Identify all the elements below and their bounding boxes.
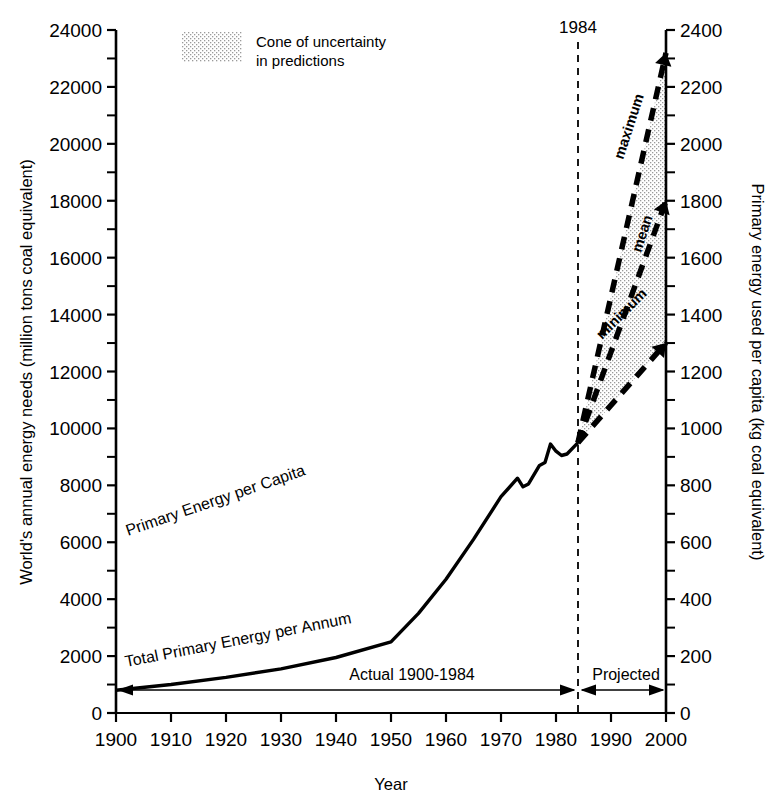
y-tick-label: 8000 [60,475,102,496]
x-tick-label: 2000 [645,729,687,750]
x-tick-label: 1930 [260,729,302,750]
y2-tick-label: 2000 [680,134,722,155]
y2-axis-title: Primary energy used per capita (kg coal … [749,184,767,561]
marker-1984-label: 1984 [559,18,597,37]
range-label-projected: Projected [592,666,660,683]
legend-label-line2: in predictions [256,52,344,69]
x-tick-label: 1910 [150,729,192,750]
y2-tick-label: 600 [680,532,712,553]
x-tick-label: 1920 [205,729,247,750]
y-tick-label: 16000 [49,248,102,269]
y2-tick-label: 800 [680,475,712,496]
x-tick-label: 1980 [535,729,577,750]
y2-tick-label: 1200 [680,362,722,383]
y-tick-label: 18000 [49,191,102,212]
y2-tick-label: 0 [680,703,691,724]
y2-tick-label: 1600 [680,248,722,269]
y2-tick-label: 1400 [680,305,722,326]
legend-label-line1: Cone of uncertainty [256,33,387,50]
range-label-actual: Actual 1900-1984 [349,666,475,683]
y-tick-label: 12000 [49,362,102,383]
x-axis-tick-labels: 1900191019201930194019501960197019801990… [95,729,687,750]
y-tick-label: 22000 [49,77,102,98]
x-tick-label: 1970 [480,729,522,750]
y-tick-label: 4000 [60,589,102,610]
y-tick-label: 24000 [49,20,102,41]
y-tick-label: 2000 [60,646,102,667]
legend-swatch-cone [182,32,242,62]
y-tick-label: 14000 [49,305,102,326]
x-tick-label: 1900 [95,729,137,750]
y2-tick-label: 2200 [680,77,722,98]
y-tick-label: 10000 [49,418,102,439]
y-tick-label: 6000 [60,532,102,553]
y2-tick-label: 400 [680,589,712,610]
y2-tick-label: 200 [680,646,712,667]
y-axis-title: World's annual energy needs (million ton… [17,159,35,585]
y2-tick-label: 1800 [680,191,722,212]
x-tick-label: 1940 [315,729,357,750]
y-tick-label: 20000 [49,134,102,155]
x-axis-title: Year [374,775,408,793]
y2-tick-label: 2400 [680,20,722,41]
y2-tick-label: 1000 [680,418,722,439]
x-tick-label: 1950 [370,729,412,750]
x-tick-label: 1960 [425,729,467,750]
x-tick-label: 1990 [590,729,632,750]
energy-needs-chart: 0200040006000800010000120001400016000180… [0,0,781,802]
chart-figure: 0200040006000800010000120001400016000180… [0,0,781,802]
y-tick-label: 0 [91,703,102,724]
